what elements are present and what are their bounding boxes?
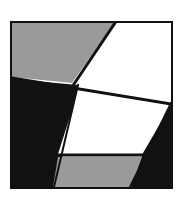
artwork-stage: Abstract Geometric Composition [0, 0, 184, 199]
geometric-composition [12, 23, 171, 187]
artwork-frame [10, 21, 173, 189]
shape-bottom-gray-parallelogram [53, 157, 142, 187]
